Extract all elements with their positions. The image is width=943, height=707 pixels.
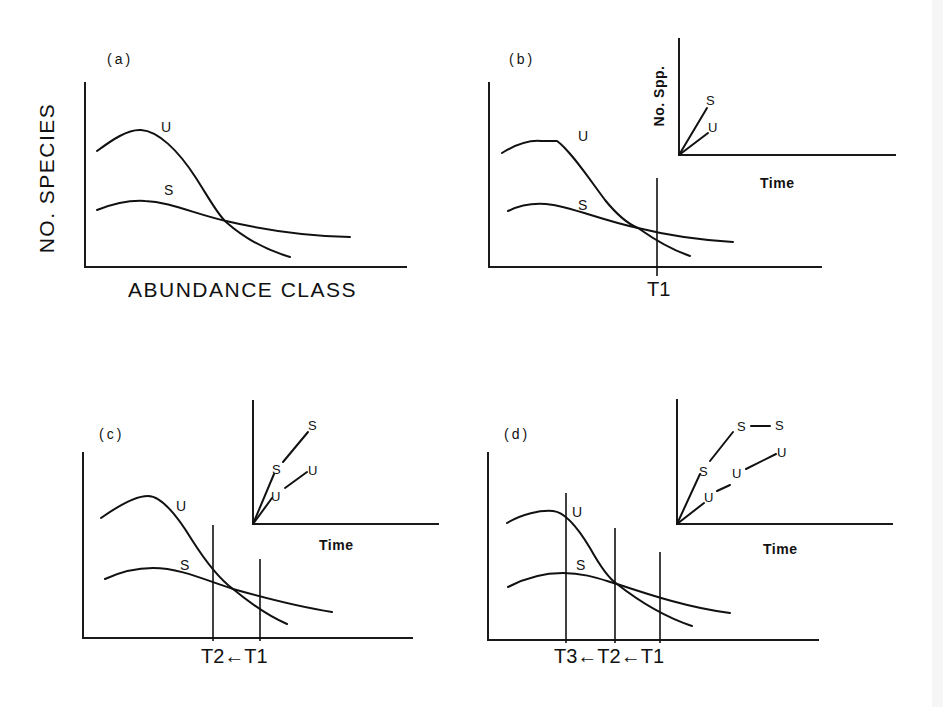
inset-x-label: Time	[319, 537, 353, 553]
inset-segment-s	[679, 108, 707, 155]
inset-marker-s: S	[699, 464, 708, 479]
curve-label-s: S	[578, 197, 587, 213]
inset-x-label: Time	[760, 175, 794, 191]
curve-s	[508, 573, 730, 613]
inset-marker-u: U	[708, 120, 717, 135]
curve-label-u: U	[578, 128, 588, 144]
panel-d: (d)T3←T2←T1USTimeSSSUUU	[488, 399, 893, 667]
y-axis-label: NO. SPECIES	[35, 103, 58, 254]
inset-marker-u: U	[777, 445, 786, 460]
inset-species-vs-time: TimeSSSUUU	[677, 399, 893, 557]
time-marker-label: T1	[647, 278, 670, 300]
curve-label-s: S	[164, 182, 173, 198]
curve-u	[97, 130, 290, 257]
inset-marker-u: U	[732, 466, 741, 481]
panel-a: (a)NO. SPECIESABUNDANCE CLASSUS	[35, 51, 407, 301]
inset-segment-u	[746, 454, 776, 469]
time-marker-label: T3←T2←T1	[554, 645, 664, 667]
panel-label: (c)	[99, 426, 124, 442]
figure-canvas: (a)NO. SPECIESABUNDANCE CLASSUS(b)T1USNo…	[0, 0, 943, 707]
panel-c: (c)T2←T1USTimeSSUU	[83, 400, 439, 667]
inset-segment-u	[717, 485, 730, 491]
curve-label-u: U	[161, 119, 171, 135]
curve-label-u: U	[572, 504, 582, 520]
inset-marker-s: S	[737, 419, 746, 434]
inset-marker-s: S	[308, 418, 317, 433]
time-marker-label: T2←T1	[201, 645, 268, 667]
panel-label: (a)	[107, 51, 133, 67]
inset-marker-s: S	[272, 462, 281, 477]
panel-b: (b)T1USNo. Spp.TimeSU	[489, 38, 896, 300]
inset-marker-s: S	[706, 93, 715, 108]
panel-label: (d)	[504, 426, 530, 442]
curve-label-s: S	[576, 557, 585, 573]
inset-segment-s	[710, 432, 733, 461]
inset-species-vs-time: No. Spp.TimeSU	[651, 38, 896, 191]
inset-x-label: Time	[763, 541, 797, 557]
curve-s	[508, 204, 733, 242]
inset-marker-u: U	[271, 489, 280, 504]
inset-segment-s	[677, 474, 700, 524]
inset-marker-s: S	[775, 418, 784, 433]
curve-u	[507, 511, 692, 626]
main-axes	[85, 82, 407, 267]
panel-label: (b)	[509, 51, 535, 67]
inset-segment-s	[283, 432, 308, 462]
inset-species-vs-time: TimeSSUU	[253, 400, 439, 553]
inset-marker-u: U	[704, 490, 713, 505]
main-axes	[83, 452, 413, 638]
curve-label-u: U	[176, 498, 186, 514]
curve-label-s: S	[180, 557, 189, 573]
inset-segment-u	[679, 133, 708, 155]
inset-y-label: No. Spp.	[651, 66, 667, 127]
inset-marker-u: U	[308, 463, 317, 478]
inset-segment-u	[285, 472, 307, 488]
curve-u	[502, 141, 690, 256]
x-axis-label: ABUNDANCE CLASS	[128, 278, 357, 301]
inset-axes	[253, 400, 439, 524]
